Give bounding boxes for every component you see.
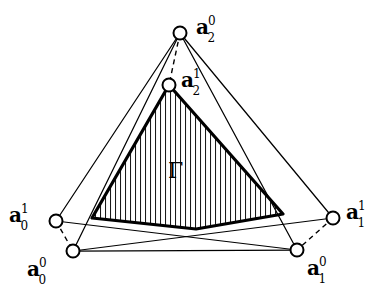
vertex-marker-a2-1 — [163, 79, 176, 92]
vertex-marker-a2-0 — [174, 27, 187, 40]
label-subscript-a2-1: 2 — [193, 84, 201, 98]
label-superscript-a1-0: 0 — [319, 255, 327, 269]
label-subscript-a2-0: 2 — [208, 31, 216, 45]
label-superscript-a2-1: 1 — [193, 67, 201, 81]
label-vertex-a2-upper0: a02 — [196, 16, 224, 41]
label-superscript-a2-0: 0 — [208, 14, 216, 28]
label-vertex-a1-upper1: a11 — [346, 201, 374, 226]
label-subscript-a0-0: 0 — [39, 273, 47, 287]
label-superscript-a1-1: 1 — [358, 199, 366, 213]
label-subscript-a1-0: 1 — [319, 272, 327, 286]
label-vertex-a2-upper1: a12 — [181, 69, 209, 94]
vertex-marker-a1-1 — [327, 212, 340, 225]
figure-root: a02a12a10a11a00a01 Γ — [0, 0, 387, 295]
label-superscript-a0-1: 1 — [21, 202, 29, 216]
label-subscript-a0-1: 0 — [21, 219, 29, 233]
gamma-region-label: Γ — [168, 160, 183, 182]
vertex-marker-a0-1 — [50, 215, 63, 228]
diagram-canvas — [0, 0, 387, 295]
vertex-marker-a1-0 — [291, 244, 304, 257]
label-vertex-a0-upper1: a10 — [9, 204, 37, 229]
label-vertex-a1-upper0: a01 — [307, 257, 335, 282]
label-vertex-a0-upper0: a00 — [27, 258, 55, 283]
label-subscript-a1-1: 1 — [358, 216, 366, 230]
vertex-marker-a0-0 — [67, 245, 80, 258]
edge-a0-0-to-a1-0 — [73, 250, 297, 251]
label-superscript-a0-0: 0 — [39, 256, 47, 270]
